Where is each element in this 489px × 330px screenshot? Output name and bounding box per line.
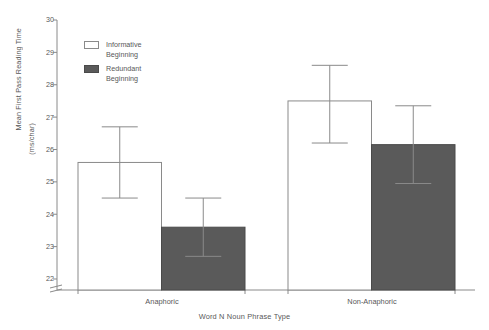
bar-informative-anaphoric — [78, 162, 162, 290]
y-tick-label-26: 26 — [32, 146, 54, 153]
bar-informative-non-anaphoric — [288, 101, 372, 290]
y-tick-label-29: 29 — [32, 49, 54, 56]
x-axis-title: Word N Noun Phrase Type — [0, 312, 489, 321]
legend-label-redundant: Redundant Beginning — [106, 64, 141, 83]
legend-item-informative: Informative Beginning — [84, 40, 189, 59]
y-axis-title-main: Mean First Pass Reading Time — [14, 28, 23, 130]
error-bar-informative-non-anaphoric — [312, 65, 348, 143]
y-tick-label-24: 24 — [32, 211, 54, 218]
bar-redundant-non-anaphoric — [372, 145, 456, 290]
y-tick-label-23: 23 — [32, 243, 54, 250]
error-bar-redundant-non-anaphoric — [395, 106, 431, 184]
legend-swatch-redundant-icon — [84, 65, 99, 73]
y-tick-label-27: 27 — [32, 114, 54, 121]
plot-area — [0, 0, 489, 330]
chart-legend: Informative Beginning Redundant Beginnin… — [84, 40, 189, 88]
y-tick-label-25: 25 — [32, 178, 54, 185]
y-tick-label-28: 28 — [32, 81, 54, 88]
error-bar-informative-anaphoric — [102, 127, 138, 198]
x-tick-label-non-anaphoric: Non-Anaphoric — [330, 298, 414, 305]
y-tick-label-30: 30 — [32, 16, 54, 23]
y-axis-title: Mean First Pass Reading Time (ms/char) — [14, 28, 40, 228]
axis-break-icon — [50, 285, 62, 292]
y-tick-label-22: 22 — [32, 275, 54, 282]
legend-label-informative: Informative Beginning — [106, 40, 142, 59]
bar-chart-figure: Mean First Pass Reading Time (ms/char) 2… — [0, 0, 489, 330]
error-bar-redundant-anaphoric — [185, 198, 221, 256]
x-tick-marks — [78, 290, 455, 294]
legend-swatch-informative-icon — [84, 41, 99, 49]
bar-redundant-anaphoric — [162, 227, 246, 290]
x-tick-label-anaphoric: Anaphoric — [120, 298, 204, 305]
legend-item-redundant: Redundant Beginning — [84, 64, 189, 83]
